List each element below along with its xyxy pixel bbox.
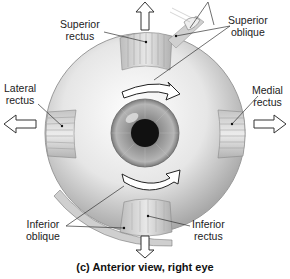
- label-line: rectus: [60, 30, 100, 42]
- inferior-rectus-muscle: [120, 199, 172, 236]
- superior-rectus-muscle: [120, 32, 172, 70]
- label-line: Superior: [228, 14, 268, 26]
- label-line: Medial: [252, 84, 283, 96]
- arrow-right-icon: [254, 115, 286, 133]
- label-inferior-rectus: Inferior rectus: [192, 218, 225, 242]
- label-line: Inferior: [192, 218, 225, 230]
- label-line: Lateral: [4, 82, 36, 94]
- lateral-rectus-muscle: [46, 110, 76, 158]
- label-line: Inferior: [26, 218, 60, 230]
- label-superior-oblique: Superior oblique: [228, 14, 268, 38]
- medial-rectus-muscle: [218, 110, 246, 158]
- label-line: rectus: [4, 94, 36, 106]
- label-medial-rectus: Medial rectus: [252, 84, 283, 108]
- label-superior-rectus: Superior rectus: [60, 18, 100, 42]
- pupil: [131, 119, 159, 147]
- label-line: Superior: [60, 18, 100, 30]
- arrow-up-icon: [136, 2, 154, 30]
- label-lateral-rectus: Lateral rectus: [4, 82, 36, 106]
- figure-caption: (c) Anterior view, right eye: [0, 261, 290, 273]
- label-line: oblique: [228, 26, 268, 38]
- label-line: oblique: [26, 230, 60, 242]
- label-line: rectus: [192, 230, 225, 242]
- label-inferior-oblique: Inferior oblique: [26, 218, 60, 242]
- arrow-left-icon: [4, 115, 36, 133]
- label-line: rectus: [252, 96, 283, 108]
